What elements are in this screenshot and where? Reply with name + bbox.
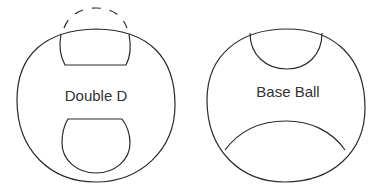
double-d-label: Double D: [65, 87, 128, 104]
double-d-dashed-arc: [64, 8, 127, 28]
base-ball-label: Base Ball: [256, 83, 319, 100]
double-d-bottom-d: [62, 119, 130, 173]
double-d-figure: Double D: [17, 8, 175, 182]
base-ball-top-arc: [250, 33, 322, 69]
double-d-outline: [17, 29, 175, 182]
base-ball-bottom-arc: [225, 121, 345, 150]
ball-design-diagram: Double D Base Ball: [0, 0, 380, 193]
double-d-top-notch: [60, 34, 130, 65]
base-ball-figure: Base Ball: [207, 29, 365, 182]
base-ball-outline: [207, 29, 365, 182]
